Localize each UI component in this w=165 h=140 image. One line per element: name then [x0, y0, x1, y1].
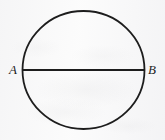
point-label-b: B	[148, 63, 156, 76]
point-label-a: A	[9, 63, 17, 76]
diagram-graphics	[0, 0, 165, 140]
geometry-diagram: A B	[0, 0, 165, 140]
